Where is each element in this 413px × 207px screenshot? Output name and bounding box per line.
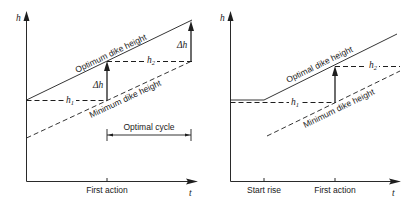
right-panel: h t Start rise First action Optimal dike… [220, 11, 401, 198]
left-delta-arrow-2-head-icon [188, 21, 194, 31]
left-cycle-arrow-left-icon [108, 134, 113, 137]
right-minimum-label: Minimum dike height [301, 86, 376, 129]
right-y-axis-arrow-icon [228, 11, 234, 21]
left-optimum-label: Optimum dike height [74, 32, 149, 75]
left-cycle-arrow-right-icon [185, 134, 190, 137]
left-x-axis-label: t [189, 188, 192, 198]
dike-height-diagrams: h t First action Optimum dike height Min… [0, 0, 413, 207]
left-cycle-label: Optimal cycle [123, 122, 174, 132]
right-y-axis-label: h [220, 13, 225, 23]
right-optimal-label: Optimal dike height [284, 44, 354, 85]
right-tick-label-start-rise: Start rise [247, 185, 281, 195]
right-tick-label-first-action: First action [314, 185, 356, 195]
right-x-axis-label: t [392, 188, 395, 198]
left-delta-h-label-1: Δh [92, 80, 104, 90]
left-panel: h t First action Optimum dike height Min… [16, 11, 198, 198]
left-y-axis-arrow-icon [24, 11, 30, 21]
left-delta-h-label-2: Δh [176, 40, 188, 50]
right-raise-arrow-head-icon [332, 66, 338, 76]
left-optimum-line [27, 20, 193, 100]
left-y-axis-label: h [16, 13, 21, 23]
left-tick-label-first-action: First action [86, 185, 128, 195]
